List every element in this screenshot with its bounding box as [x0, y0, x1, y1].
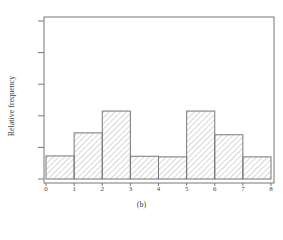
x-tick-label: 5	[185, 185, 189, 193]
y-axis-ticks	[38, 21, 44, 179]
x-tick-label: 3	[129, 185, 133, 193]
histogram-bar	[130, 156, 158, 179]
histogram-bar	[187, 111, 215, 179]
histogram-bar	[243, 157, 271, 179]
histogram-bar	[102, 111, 130, 179]
histogram-bar	[159, 157, 187, 179]
y-axis-label-text: Relative frequency	[7, 76, 16, 137]
x-tick-label: 6	[213, 185, 217, 193]
histogram-bar	[46, 156, 74, 179]
x-tick-label: 2	[101, 185, 105, 193]
x-tick-label: 1	[72, 185, 76, 193]
histogram-bar	[74, 133, 102, 179]
x-tick-label: 8	[269, 185, 273, 193]
y-axis-label: Relative frequency	[5, 100, 17, 112]
x-tick-label: 4	[157, 185, 161, 193]
histogram-bar	[215, 135, 243, 179]
figure-caption: (b)	[0, 200, 283, 209]
x-tick-label: 7	[241, 185, 245, 193]
histogram-bars	[46, 111, 271, 179]
x-tick-label: 0	[44, 185, 48, 193]
